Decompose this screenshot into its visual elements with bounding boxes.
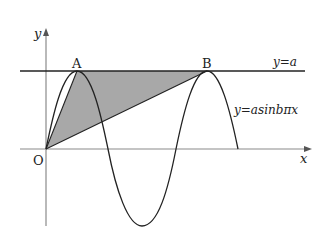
sine-curve-label: y=asinbπx [233, 103, 298, 117]
point-a-label: A [71, 56, 82, 71]
x-axis-label: x [300, 151, 308, 166]
y-axis-label: y [33, 26, 42, 41]
point-b-label: B [202, 56, 212, 71]
sine-graph-diagram: A B O x y y=a y=asinbπx [0, 0, 328, 243]
origin-label: O [33, 153, 44, 168]
line-y-equals-a-label: y=a [272, 55, 297, 69]
y-axis-arrow-icon [43, 28, 49, 36]
